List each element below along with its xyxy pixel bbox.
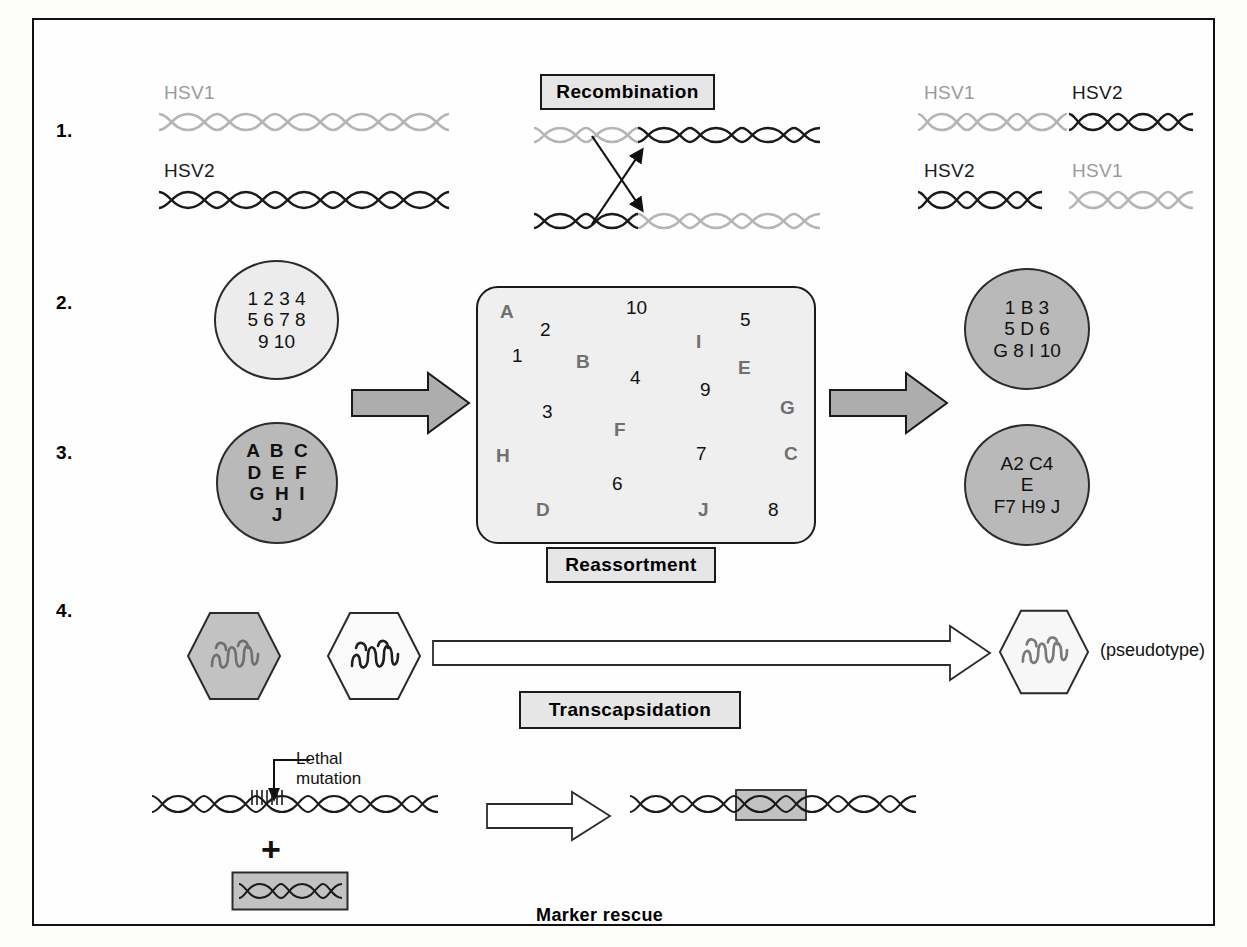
capsid-hexagon-gray: [186, 608, 282, 704]
donor-dna-fragment: [231, 871, 349, 911]
pool-letter-B: B: [576, 352, 590, 371]
pool-number-1: 1: [512, 346, 523, 365]
pool-letter-D: D: [536, 500, 550, 519]
step-number-1: 1.: [56, 120, 73, 142]
pool-number-6: 6: [612, 474, 623, 493]
figure-frame: 1. 2. 3. 4. HSV1 HSV2 Recombination: [32, 18, 1215, 926]
input-letters-row-1: A B C: [246, 440, 308, 461]
dna-hsv2-input: [159, 188, 449, 216]
step-number-4: 4.: [56, 600, 73, 622]
capsid-hexagon-white: [326, 608, 422, 704]
pool-number-7: 7: [696, 444, 707, 463]
input-letters-row-2: D E F: [247, 462, 306, 483]
arrow-out-of-pool: [828, 368, 950, 438]
reassortment-pool: A 10 5 2 I 1 B E 4 9 3 G F C 7 H 6 D J 8: [476, 286, 816, 544]
pool-letter-F: F: [614, 420, 626, 439]
pool-number-2: 2: [540, 320, 551, 339]
pool-letter-A: A: [500, 302, 514, 321]
step-number-3: 3.: [56, 442, 73, 464]
pool-number-10: 10: [626, 298, 647, 317]
pool-number-3: 3: [542, 402, 553, 421]
pool-letter-J: J: [698, 500, 709, 519]
capsid-hexagon-pseudotype: [998, 606, 1090, 698]
dna-recombinant-bottom: [918, 188, 1198, 216]
pool-number-8: 8: [768, 500, 779, 519]
dna-recombinant-top: [918, 110, 1198, 138]
figure-page: 1. 2. 3. 4. HSV1 HSV2 Recombination: [0, 0, 1247, 947]
recombination-box-label: Recombination: [540, 74, 715, 110]
transcapsidation-box-label: Transcapsidation: [519, 691, 741, 729]
pool-letter-C: C: [784, 444, 798, 463]
step-number-2: 2.: [56, 292, 73, 314]
pseudotype-label: (pseudotype): [1100, 640, 1205, 661]
dna-rescued: [630, 788, 920, 822]
label-recombinant-top-left: HSV1: [924, 82, 975, 104]
output-bottom-row-3: F7 H9 J: [994, 496, 1061, 517]
pool-letter-H: H: [496, 446, 510, 465]
reassortment-box-label: Reassortment: [546, 547, 716, 583]
input-numbers-row-2: 5 6 7 8: [247, 309, 305, 330]
plus-sign: +: [261, 832, 281, 866]
label-recombinant-bottom-right: HSV1: [1072, 160, 1123, 182]
marker-rescue-label: Marker rescue: [536, 905, 663, 926]
dna-hsv1-input: [159, 110, 449, 138]
transcapsidation-arrow: [432, 624, 992, 682]
pool-number-9: 9: [700, 380, 711, 399]
output-top-row-1: 1 B 3: [1005, 297, 1049, 318]
input-letters-row-4: J: [272, 504, 283, 525]
input-letters-row-3: G H I: [250, 483, 305, 504]
output-top-row-3: G 8 I 10: [993, 340, 1061, 361]
label-recombinant-bottom-left: HSV2: [924, 160, 975, 182]
dna-mutant: [152, 788, 442, 822]
label-recombinant-top-right: HSV2: [1072, 82, 1123, 104]
output-bottom-row-1: A2 C4: [1001, 453, 1054, 474]
output-bottom-row-2: E: [1021, 474, 1034, 495]
recombination-crossover-diagram: [534, 124, 824, 234]
input-numbers-row-1: 1 2 3 4: [247, 288, 305, 309]
pool-number-4: 4: [630, 368, 641, 387]
input-circle-numbers: 1 2 3 4 5 6 7 8 9 10: [214, 260, 339, 380]
pool-letter-I: I: [696, 332, 701, 351]
marker-rescue-arrow: [486, 790, 612, 842]
input-circle-letters: A B C D E F G H I J: [216, 422, 338, 544]
output-top-row-2: 5 D 6: [1004, 318, 1049, 339]
pool-number-5: 5: [740, 310, 751, 329]
input-numbers-row-3: 9 10: [258, 331, 295, 352]
label-hsv1-input: HSV1: [164, 82, 215, 104]
output-circle-bottom: A2 C4 E F7 H9 J: [964, 424, 1090, 546]
pool-letter-E: E: [738, 358, 751, 377]
pool-letter-G: G: [780, 398, 795, 417]
label-hsv2-input: HSV2: [164, 160, 215, 182]
arrow-into-pool: [350, 368, 472, 438]
output-circle-top: 1 B 3 5 D 6 G 8 I 10: [964, 268, 1090, 390]
